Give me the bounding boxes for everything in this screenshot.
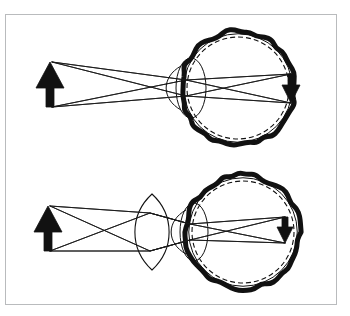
- panels-layer: [34, 30, 301, 291]
- object-arrow: [36, 62, 64, 107]
- object-arrow: [34, 206, 62, 251]
- eye-ray-diagram: Optical ray diagram of the human eye: un…: [0, 0, 350, 316]
- uncorrected-eye-panel: [36, 30, 300, 145]
- corrected-eye-panel: [34, 173, 301, 290]
- cornea: [166, 66, 181, 110]
- corrective-convex-lens: [135, 194, 169, 270]
- figure-root: Optical ray diagram of the human eye: un…: [0, 0, 350, 316]
